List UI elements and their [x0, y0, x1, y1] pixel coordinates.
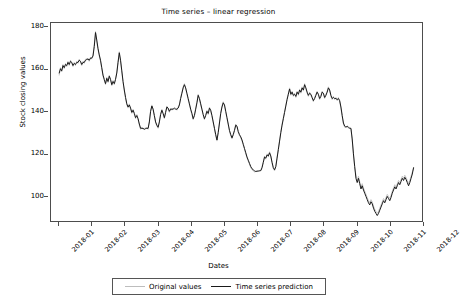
x-axis-ticks: 2018-012018-022018-032018-042018-052018-…: [50, 222, 423, 223]
x-tick-mark: [191, 222, 192, 226]
legend-label-original: Original values: [149, 283, 201, 291]
chart-legend: Original values Time series prediction: [112, 278, 326, 295]
x-tick-mark: [124, 222, 125, 226]
x-tick-label: 2018-09: [336, 228, 362, 254]
plot-area: [50, 22, 423, 222]
x-tick-label: 2018-12: [435, 228, 461, 254]
x-tick-mark: [357, 222, 358, 226]
x-tick-mark: [423, 222, 424, 226]
legend-swatch-icon-original: [125, 286, 145, 287]
legend-label-prediction: Time series prediction: [235, 283, 312, 291]
chart-title: Time series – linear regression: [0, 7, 437, 16]
x-tick-label: 2018-03: [137, 228, 163, 254]
x-tick-mark: [158, 222, 159, 226]
y-tick-mark: [44, 69, 48, 70]
y-tick-mark: [44, 196, 48, 197]
x-tick-label: 2018-07: [269, 228, 295, 254]
x-tick-label: 2018-05: [203, 228, 229, 254]
x-tick-mark: [91, 222, 92, 226]
x-tick-label: 2018-11: [402, 228, 428, 254]
y-axis-ticks: 100120140160180: [12, 22, 44, 222]
x-tick-label: 2018-02: [103, 228, 129, 254]
x-tick-mark: [390, 222, 391, 226]
line-time-series-prediction: [59, 33, 413, 216]
legend-item-prediction: Time series prediction: [211, 283, 312, 291]
x-tick-mark: [58, 222, 59, 226]
x-tick-mark: [224, 222, 225, 226]
x-tick-mark: [323, 222, 324, 226]
legend-swatch-icon-prediction: [211, 286, 231, 287]
x-tick-mark: [290, 222, 291, 226]
x-axis-label: Dates: [0, 262, 437, 270]
x-tick-label: 2018-06: [236, 228, 262, 254]
y-tick-mark: [44, 111, 48, 112]
x-tick-mark: [257, 222, 258, 226]
y-axis-label: Stock closing values: [19, 22, 27, 162]
series-canvas: [51, 23, 424, 223]
x-tick-label: 2018-01: [70, 228, 96, 254]
y-tick-mark: [44, 26, 48, 27]
x-tick-label: 2018-10: [369, 228, 395, 254]
x-tick-label: 2018-08: [303, 228, 329, 254]
y-tick-label: 100: [18, 193, 44, 200]
x-tick-label: 2018-04: [170, 228, 196, 254]
legend-item-original-values: Original values: [125, 283, 201, 291]
y-tick-mark: [44, 154, 48, 155]
